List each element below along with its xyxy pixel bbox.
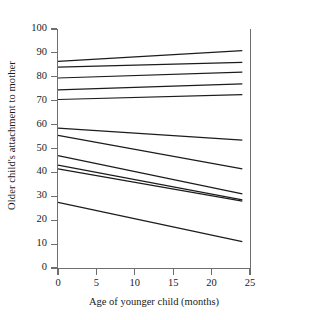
x-tick-label-15: 15 [160, 278, 186, 289]
axis-spine-bottom [57, 268, 251, 269]
series-line-1 [58, 51, 242, 62]
y-tick-label-10: 10 [21, 238, 47, 249]
y-tick-label-50: 50 [21, 143, 47, 154]
plot-area [58, 29, 250, 268]
y-tick-70 [51, 100, 57, 101]
y-tick-90 [51, 52, 57, 53]
series-line-8 [58, 156, 242, 194]
y-tick-0 [51, 267, 57, 268]
series-line-11 [58, 202, 242, 241]
x-tick-label-20: 20 [199, 278, 225, 289]
x-tick-label-5: 5 [83, 278, 109, 289]
y-tick-100 [51, 28, 57, 29]
y-tick-40 [51, 172, 57, 173]
series-line-6 [58, 128, 242, 140]
y-tick-label-30: 30 [21, 190, 47, 201]
x-tick-15 [173, 269, 174, 275]
y-tick-20 [51, 220, 57, 221]
x-axis-title: Age of younger child (months) [58, 296, 250, 307]
y-axis-title: Older child's attachment to mother [0, 0, 22, 270]
series-line-4 [58, 84, 242, 90]
series-line-10 [58, 169, 242, 201]
y-tick-30 [51, 196, 57, 197]
line-series-group [58, 29, 250, 268]
y-tick-label-100: 100 [21, 23, 47, 34]
series-line-3 [58, 72, 242, 78]
y-tick-10 [51, 244, 57, 245]
x-tick-25 [249, 269, 250, 275]
series-line-5 [58, 95, 242, 100]
y-tick-label-20: 20 [21, 214, 47, 225]
x-axis-title-text: Age of younger child (months) [89, 296, 219, 307]
y-tick-60 [51, 124, 57, 125]
chart-figure: Older child's attachment to mother 01020… [0, 0, 315, 320]
series-line-9 [58, 165, 242, 200]
x-tick-10 [134, 269, 135, 275]
y-tick-label-60: 60 [21, 119, 47, 130]
x-tick-label-10: 10 [122, 278, 148, 289]
y-tick-50 [51, 148, 57, 149]
series-line-7 [58, 135, 242, 168]
x-tick-label-25: 25 [237, 278, 263, 289]
x-tick-20 [211, 269, 212, 275]
y-tick-label-90: 90 [21, 47, 47, 58]
x-tick-0 [57, 269, 58, 275]
y-axis-title-text: Older child's attachment to mother [6, 61, 17, 210]
y-tick-label-80: 80 [21, 71, 47, 82]
y-tick-80 [51, 76, 57, 77]
x-tick-5 [96, 269, 97, 275]
y-tick-label-40: 40 [21, 166, 47, 177]
y-tick-label-0: 0 [21, 262, 47, 273]
x-tick-label-0: 0 [45, 278, 71, 289]
y-tick-label-70: 70 [21, 95, 47, 106]
series-line-2 [58, 62, 242, 67]
